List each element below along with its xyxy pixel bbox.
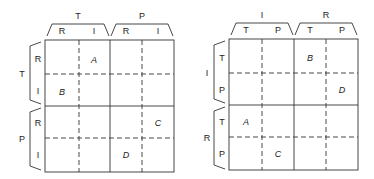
col-sub-label: T [243, 25, 249, 35]
col-sub-label: I [157, 26, 160, 36]
row-group-label: R [204, 133, 211, 143]
row-sub-label: T [219, 53, 225, 63]
row-sub-label: P [219, 149, 225, 159]
col-sub-label: P [275, 25, 281, 35]
col-group-label: T [75, 11, 81, 21]
col-sub-label: R [123, 26, 130, 36]
col-sub-label: T [307, 25, 313, 35]
col-group-label: I [261, 10, 264, 20]
cell-label: D [339, 85, 346, 95]
cell-label: C [275, 149, 282, 159]
cell-label: B [59, 87, 65, 97]
col-sub-label: P [339, 25, 345, 35]
row-sub-label: T [219, 117, 225, 127]
row-group-label: P [19, 134, 25, 144]
row-group-label: I [206, 68, 209, 78]
cell-label: A [242, 117, 249, 127]
col-group-label: P [139, 11, 145, 21]
cell-label: D [123, 150, 130, 160]
diagram-canvas: T P R I R I T P R I R I A B C D I R T [0, 0, 374, 179]
right-grid [214, 23, 358, 170]
row-sub-label: R [35, 54, 42, 64]
left-grid [30, 24, 174, 172]
right-labels: I R T P T P I R T P T P B D A C [204, 10, 346, 159]
row-sub-label: P [219, 85, 225, 95]
row-sub-label: R [35, 118, 42, 128]
row-group-label: T [19, 69, 25, 79]
cell-label: A [90, 55, 97, 65]
col-group-label: R [323, 10, 330, 20]
row-sub-label: I [37, 86, 40, 96]
cell-label: B [307, 53, 313, 63]
col-sub-label: R [59, 26, 66, 36]
row-sub-label: I [37, 150, 40, 160]
left-labels: T P R I R I T P R I R I A B C D [19, 11, 162, 160]
col-sub-label: I [93, 26, 96, 36]
cell-label: C [155, 118, 162, 128]
